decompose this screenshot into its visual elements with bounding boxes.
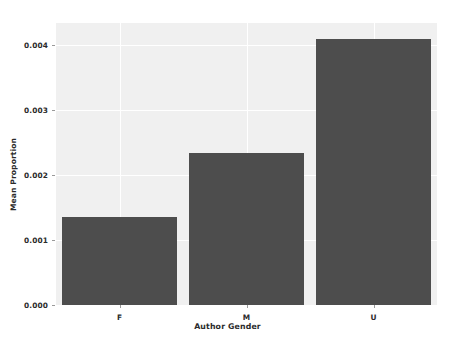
y-axis-tick-mark	[52, 175, 55, 176]
y-axis-tick-mark	[52, 305, 55, 306]
x-axis-tick-label: M	[243, 313, 251, 322]
x-axis-tick-mark	[120, 305, 121, 308]
y-axis-tick-mark	[52, 45, 55, 46]
bar-F	[62, 217, 176, 305]
x-axis-tick-mark	[374, 305, 375, 308]
y-axis-tick-label: 0.003	[24, 106, 48, 115]
x-axis-tick-mark	[247, 305, 248, 308]
x-axis-tick-label: U	[370, 313, 376, 322]
y-axis-tick-mark	[52, 240, 55, 241]
bar-M	[189, 153, 303, 305]
y-axis-tick-mark	[52, 110, 55, 111]
y-axis-tick-label: 0.000	[24, 301, 48, 310]
x-axis-title: Author Gender	[0, 322, 455, 331]
bar-chart-figure: 0.0000.0010.0020.0030.004 Mean Proportio…	[0, 0, 455, 348]
y-axis-tick-labels: 0.0000.0010.0020.0030.004	[0, 0, 48, 348]
y-axis-tick-label: 0.002	[24, 171, 48, 180]
x-axis-tick-label: F	[117, 313, 122, 322]
plot-area	[56, 23, 437, 305]
bar-U	[316, 39, 430, 305]
y-axis-tick-label: 0.001	[24, 236, 48, 245]
y-axis-tick-label: 0.004	[24, 41, 48, 50]
